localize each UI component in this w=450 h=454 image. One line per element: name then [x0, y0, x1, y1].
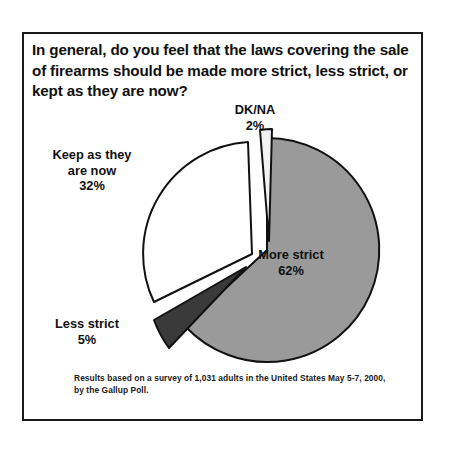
pie-label-less-strict-name: Less strict [55, 316, 119, 331]
pie-label-less-strict-pct: 5% [32, 332, 142, 348]
pie-chart: DK/NA 2% Keep as they are now 32% Less s… [24, 34, 421, 419]
source-footnote: Results based on a survey of 1,031 adult… [74, 372, 386, 396]
pie-label-more-strict-pct: 62% [239, 263, 343, 279]
pie-label-keep-same: Keep as they are now 32% [32, 147, 152, 194]
pie-label-dkna-pct: 2% [212, 118, 298, 134]
pie-label-dkna: DK/NA 2% [212, 102, 298, 133]
pie-label-more-strict-name: More strict [258, 247, 323, 262]
pie-label-keep-same-pct: 32% [32, 178, 152, 194]
pie-label-more-strict: More strict 62% [239, 247, 343, 278]
pie-label-less-strict: Less strict 5% [32, 316, 142, 347]
chart-frame: In general, do you feel that the laws co… [22, 32, 423, 421]
pie-label-keep-same-line2: are now [32, 163, 152, 179]
pie-label-dkna-name: DK/NA [235, 102, 276, 117]
pie-chart-svg [24, 34, 421, 419]
pie-label-keep-same-line1: Keep as they [53, 147, 132, 162]
